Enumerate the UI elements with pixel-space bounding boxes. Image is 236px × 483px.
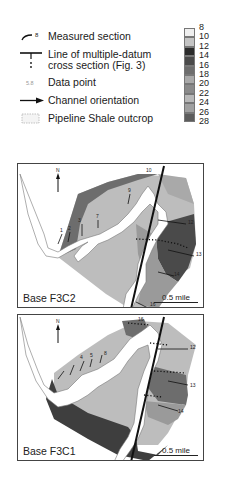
section-number: 13 bbox=[190, 382, 196, 388]
data-point-marker: 5.8 bbox=[26, 80, 34, 86]
north-label: N bbox=[56, 318, 60, 324]
scale-band bbox=[184, 28, 195, 37]
section-number: 5 bbox=[90, 352, 93, 358]
channel-arrow-icon bbox=[18, 95, 48, 106]
section-number: 16 bbox=[138, 316, 144, 322]
north-label: N bbox=[56, 167, 60, 173]
section-number: 4 bbox=[80, 354, 83, 360]
north-arrow-head bbox=[56, 324, 60, 330]
legend-label: Pipeline Shale outcrop bbox=[48, 113, 153, 124]
map-canvas: N 1 2 3 7 9 10 12 13 14 16 bbox=[18, 164, 204, 308]
section-number: 2 bbox=[68, 225, 71, 231]
scale-band bbox=[184, 84, 195, 93]
section-number: 12 bbox=[188, 219, 194, 225]
section-number: 1 bbox=[60, 227, 63, 233]
section-number: 14 bbox=[174, 271, 180, 277]
section-number: 3 bbox=[78, 217, 81, 223]
section-number: 9 bbox=[128, 187, 131, 193]
scale-band bbox=[184, 94, 195, 103]
scale-band bbox=[184, 103, 195, 112]
map-title: Base F3C1 bbox=[23, 445, 76, 457]
section-number: 14 bbox=[178, 408, 184, 414]
legend-label: Data point bbox=[48, 77, 96, 88]
map-scale-bar: 0.5 mile bbox=[154, 293, 198, 303]
scale-tick-label: 28 bbox=[199, 117, 209, 126]
legend-label: Line of multiple-datum cross section (Fi… bbox=[48, 49, 151, 71]
north-arrow-head bbox=[56, 173, 60, 179]
cross-section-line-icon bbox=[18, 49, 48, 71]
map-canvas: N 16 12 13 14 8 5 4 bbox=[18, 315, 204, 461]
legend-item-channel-orientation: Channel orientation bbox=[18, 95, 139, 106]
scale-band bbox=[184, 37, 195, 46]
section-number: 8 bbox=[104, 350, 107, 356]
data-point-icon: 5.8 bbox=[18, 77, 48, 88]
scale-band bbox=[184, 75, 195, 84]
measured-section-icon: 8 bbox=[18, 31, 48, 42]
scale-band bbox=[184, 47, 195, 56]
outcrop-pattern-icon bbox=[18, 113, 48, 124]
scale-band bbox=[184, 113, 195, 122]
section-number: 7 bbox=[96, 213, 99, 219]
scale-band bbox=[184, 56, 195, 65]
section-number: 12 bbox=[190, 344, 196, 350]
legend-item-outcrop: Pipeline Shale outcrop bbox=[18, 113, 153, 124]
scale-tick-label: 14 bbox=[199, 51, 209, 60]
legend-item-measured-section: 8 Measured section bbox=[18, 31, 131, 42]
legend-item-data-point: 5.8 Data point bbox=[18, 77, 96, 88]
thickness-color-scale bbox=[184, 28, 195, 122]
map-base-f3c1: N 16 12 13 14 8 5 4 Base F3C1 0.5 mile bbox=[17, 314, 204, 461]
scale-tick-label: 24 bbox=[199, 98, 209, 107]
legend-item-cross-section: Line of multiple-datum cross section (Fi… bbox=[18, 49, 151, 71]
legend-label: Measured section bbox=[48, 31, 131, 42]
legend-label: Channel orientation bbox=[48, 95, 139, 106]
section-number: 10 bbox=[146, 167, 152, 173]
map-title: Base F3C2 bbox=[23, 292, 76, 304]
measured-section-marker: 8 bbox=[35, 32, 39, 38]
map-base-f3c2: N 1 2 3 7 9 10 12 13 14 16 Base F3C2 0.5… bbox=[17, 163, 204, 308]
scale-band bbox=[184, 66, 195, 75]
section-number: 13 bbox=[196, 251, 202, 257]
map-scale-bar: 0.5 mile bbox=[154, 446, 198, 456]
